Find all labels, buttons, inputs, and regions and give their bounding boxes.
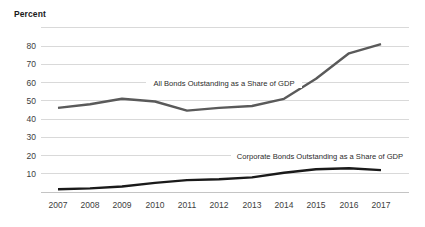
y-tick-label-20: 20 bbox=[27, 151, 37, 161]
line-chart-plot: 80 70 60 50 40 30 20 10 All Bonds Outsta… bbox=[0, 0, 425, 227]
annotation-corporate-bonds: Corporate Bonds Outstanding as a Share o… bbox=[231, 151, 409, 161]
x-tick-label-2015: 2015 bbox=[307, 200, 326, 210]
x-tick-label-2008: 2008 bbox=[81, 200, 100, 210]
y-tick-label-80: 80 bbox=[27, 41, 37, 51]
series-corporate-bonds bbox=[58, 168, 381, 189]
y-tick-label-40: 40 bbox=[27, 114, 37, 124]
annotation-corporate-bonds-label: Corporate Bonds Outstanding as a Share o… bbox=[237, 152, 403, 161]
corporate-bonds-line bbox=[58, 168, 381, 189]
x-axis-tick-labels: 2007 2008 2009 2010 2011 2012 2013 2014 … bbox=[49, 200, 391, 210]
y-tick-label-60: 60 bbox=[27, 78, 37, 88]
x-tick-label-2013: 2013 bbox=[243, 200, 262, 210]
y-tick-label-30: 30 bbox=[27, 132, 37, 142]
x-tick-label-2016: 2016 bbox=[340, 200, 359, 210]
x-tick-label-2010: 2010 bbox=[146, 200, 165, 210]
y-tick-label-70: 70 bbox=[27, 59, 37, 69]
chart-container: Percent 80 70 60 50 40 30 20 10 bbox=[0, 0, 425, 227]
x-tick-label-2009: 2009 bbox=[113, 200, 132, 210]
annotation-all-bonds-label: All Bonds Outstanding as a Share of GDP bbox=[154, 79, 295, 88]
x-tick-label-2011: 2011 bbox=[178, 200, 197, 210]
y-tick-label-50: 50 bbox=[27, 96, 37, 106]
x-tick-label-2007: 2007 bbox=[49, 200, 68, 210]
annotation-all-bonds: All Bonds Outstanding as a Share of GDP bbox=[146, 78, 302, 88]
y-axis-tick-labels: 80 70 60 50 40 30 20 10 bbox=[27, 41, 37, 179]
x-tick-label-2012: 2012 bbox=[210, 200, 229, 210]
y-tick-label-10: 10 bbox=[27, 169, 37, 179]
x-tick-label-2014: 2014 bbox=[275, 200, 294, 210]
x-tick-label-2017: 2017 bbox=[372, 200, 391, 210]
